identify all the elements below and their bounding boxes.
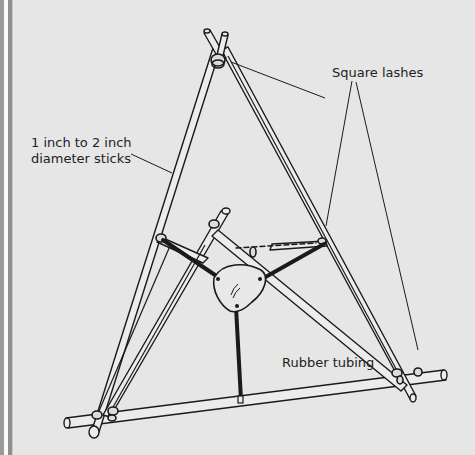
top-middle-lash [209, 220, 219, 228]
rubber-tubing-label: Rubber tubing [282, 355, 374, 371]
pouch [214, 265, 266, 312]
rubber-tubing [163, 240, 324, 400]
mid-lash [250, 247, 256, 257]
left-stick [89, 48, 220, 438]
sticks-label-line1: 1 inch to 2 inch [31, 135, 132, 151]
apex-lash [211, 54, 225, 68]
square-lashes-label: Square lashes [332, 65, 423, 81]
sticks-label-line2: diameter sticks [31, 151, 132, 167]
sticks-label: 1 inch to 2 inch diameter sticks [31, 135, 132, 167]
